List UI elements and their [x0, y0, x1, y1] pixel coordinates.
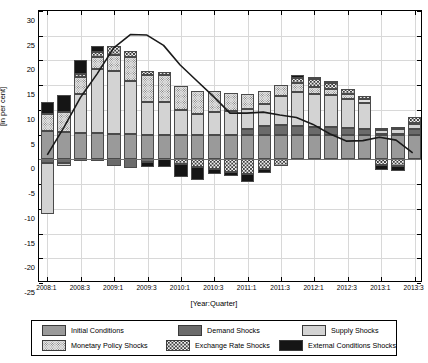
x-tick-label: 2011:3: [270, 284, 290, 291]
bar-segment: [91, 46, 104, 52]
bar-segment: [308, 87, 321, 94]
bar-segment: [258, 135, 271, 160]
bar-segment: [375, 130, 388, 134]
bar-segment: [375, 135, 388, 159]
bar-segment: [375, 128, 388, 130]
y-tick-label: 0: [31, 164, 35, 173]
legend-item-supply-shocks: Supply Shocks: [302, 325, 379, 336]
x-tick-label: 2010:1: [170, 284, 190, 291]
bar-group[interactable]: [224, 11, 237, 281]
bar-segment: [291, 135, 304, 160]
bar-segment: [291, 126, 304, 134]
legend-item-initial-conditions: Initial Conditions: [32, 325, 178, 336]
y-tick-label: -5: [28, 189, 35, 198]
bar-group[interactable]: [308, 11, 321, 281]
bar-segment: [124, 81, 137, 134]
bar-segment: [274, 135, 287, 160]
bar-segment: [291, 75, 304, 78]
bar-segment: [308, 135, 321, 160]
bar-group[interactable]: [74, 11, 87, 281]
bar-group[interactable]: [391, 11, 404, 281]
bar-group[interactable]: [41, 11, 54, 281]
bar-segment: [124, 134, 137, 159]
bar-segment: [208, 135, 221, 160]
legend-label-monetary-policy-shocks: Monetary Policy Shocks: [71, 341, 148, 350]
x-tick-label: 2012:1: [303, 284, 323, 291]
zero-line: [39, 159, 421, 160]
bar-segment: [258, 169, 271, 172]
bar-group[interactable]: [158, 11, 171, 281]
bar-group[interactable]: [375, 11, 388, 281]
bar-segment: [57, 112, 70, 131]
bar-segment: [358, 129, 371, 135]
bar-segment: [91, 52, 104, 57]
bar-group[interactable]: [241, 11, 254, 281]
bar-segment: [308, 94, 321, 127]
bar-segment: [74, 94, 87, 134]
y-axis-tick-labels: 302520151050-5-10-15-20-25: [0, 10, 35, 282]
bar-segment: [408, 129, 421, 135]
bar-group[interactable]: [274, 11, 287, 281]
bar-segment: [375, 165, 388, 169]
x-tick-label: 2011:1: [237, 284, 257, 291]
bar-segment: [41, 102, 54, 114]
bar-segment: [324, 135, 337, 160]
bar-segment: [224, 135, 237, 160]
bar-group[interactable]: [258, 11, 271, 281]
bar-segment: [308, 127, 321, 135]
bar-group[interactable]: [291, 11, 304, 281]
bar-segment: [324, 127, 337, 134]
legend-swatch-monetary-policy-shocks: [42, 340, 66, 351]
bar-segment: [258, 91, 271, 104]
legend-row-1: Initial Conditions Demand Shocks Supply …: [32, 323, 396, 338]
bar-segment: [141, 102, 154, 134]
bar-segment: [141, 162, 154, 167]
bar-segment: [224, 111, 237, 135]
x-tick-label: 2009:1: [103, 284, 123, 291]
bar-segment: [308, 79, 321, 86]
bar-segment: [141, 75, 154, 102]
y-tick-label: 10: [27, 114, 35, 123]
bar-group[interactable]: [341, 11, 354, 281]
bar-group[interactable]: [107, 11, 120, 281]
bar-segment: [291, 83, 304, 92]
bar-segment: [408, 117, 421, 122]
legend-swatch-external-conditions-shocks: [279, 340, 303, 351]
bar-group[interactable]: [124, 11, 137, 281]
y-tick-label: -20: [24, 263, 35, 272]
legend-item-exchange-rate-shocks: Exchange Rate Shocks: [166, 340, 279, 351]
bar-segment: [291, 92, 304, 126]
bar-segment: [274, 125, 287, 134]
bar-segment: [124, 57, 137, 81]
x-tick-label: 2010:3: [203, 284, 223, 291]
bar-segment: [158, 75, 171, 102]
legend-row-2: Monetary Policy Shocks Exchange Rate Sho…: [32, 338, 396, 353]
bar-segment: [258, 126, 271, 135]
legend-swatch-demand-shocks: [178, 325, 202, 336]
bar-segment: [124, 51, 137, 58]
bar-group[interactable]: [141, 11, 154, 281]
bar-segment: [341, 135, 354, 160]
bar-group[interactable]: [57, 11, 70, 281]
bar-group[interactable]: [358, 11, 371, 281]
bar-group[interactable]: [408, 11, 421, 281]
legend-label-supply-shocks: Supply Shocks: [331, 326, 379, 335]
bar-segment: [158, 72, 171, 75]
bar-group[interactable]: [191, 11, 204, 281]
bar-segment: [174, 164, 187, 176]
bar-group[interactable]: [91, 11, 104, 281]
y-tick-label: -15: [24, 238, 35, 247]
bar-segment: [241, 94, 254, 109]
bar-group[interactable]: [208, 11, 221, 281]
bar-segment: [274, 159, 287, 166]
bar-segment: [41, 114, 54, 130]
bar-segment: [375, 134, 388, 136]
bar-segment: [174, 135, 187, 160]
bar-segment: [174, 86, 187, 110]
bar-group[interactable]: [324, 11, 337, 281]
bar-segment: [74, 77, 87, 94]
legend-item-demand-shocks: Demand Shocks: [178, 325, 302, 336]
bar-segment: [107, 71, 120, 133]
bars-layer: [39, 11, 421, 281]
bar-group[interactable]: [174, 11, 187, 281]
